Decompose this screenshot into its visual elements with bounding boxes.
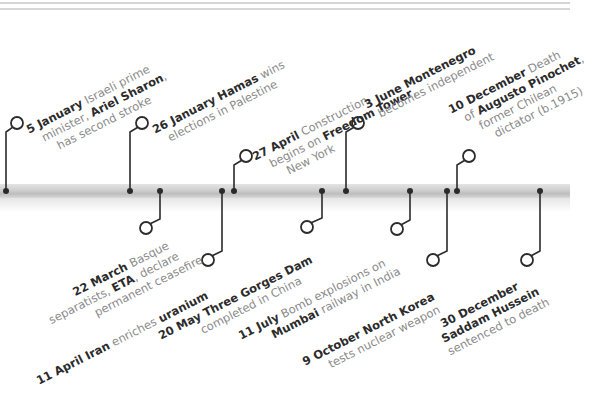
timeline-dot-icon xyxy=(157,188,163,194)
event-connector-jul11 xyxy=(391,188,413,235)
connector-line xyxy=(6,127,13,191)
event-marker-circle-icon xyxy=(427,254,439,266)
event-marker-circle-icon xyxy=(11,117,23,129)
event-connector-jan5 xyxy=(3,117,23,194)
event-marker-circle-icon xyxy=(301,221,313,233)
timeline-dot-icon xyxy=(3,188,9,194)
timeline-dot-icon xyxy=(444,188,450,194)
connector-line xyxy=(130,127,138,191)
timeline-dot-icon xyxy=(319,188,325,194)
event-connector-apr27 xyxy=(231,150,252,194)
event-marker-circle-icon xyxy=(521,254,533,266)
event-marker-circle-icon xyxy=(136,117,148,129)
timeline-dot-icon xyxy=(127,188,133,194)
timeline-dot-icon xyxy=(537,188,543,194)
event-connector-jan26 xyxy=(127,117,148,194)
event-connector-mar22 xyxy=(140,188,163,234)
event-marker-circle-icon xyxy=(140,222,152,234)
timeline-dot-icon xyxy=(407,188,413,194)
event-connector-oct9 xyxy=(427,188,450,266)
connector-line xyxy=(457,160,465,191)
connector-line xyxy=(437,191,447,256)
event-connector-may20 xyxy=(301,188,325,233)
event-connector-dec10 xyxy=(454,150,475,194)
connector-line xyxy=(531,191,540,256)
timeline-dot-icon xyxy=(343,188,349,194)
event-marker-circle-icon xyxy=(391,223,403,235)
connector-line xyxy=(212,191,222,256)
timeline-dot-icon xyxy=(454,188,460,194)
event-connector-dec30 xyxy=(521,188,543,266)
connector-line xyxy=(401,191,410,225)
connector-line xyxy=(150,191,160,224)
event-connector-apr11 xyxy=(202,188,225,266)
timeline-dot-icon xyxy=(219,188,225,194)
connector-line xyxy=(311,191,322,223)
connector-line xyxy=(234,160,242,191)
timeline-dot-icon xyxy=(231,188,237,194)
